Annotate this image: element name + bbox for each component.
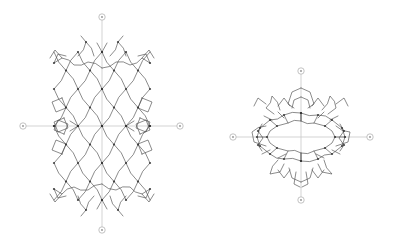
atom-knot bbox=[269, 119, 271, 121]
atom-knot bbox=[65, 69, 67, 71]
bond-path bbox=[292, 97, 301, 108]
atom-knot bbox=[324, 125, 326, 127]
bond-path bbox=[78, 196, 94, 210]
atom-knot bbox=[125, 88, 127, 90]
atom-knot bbox=[269, 153, 271, 155]
bond-path bbox=[312, 170, 324, 178]
atom-knot bbox=[259, 145, 261, 147]
atom-knot bbox=[101, 162, 103, 164]
bond-path bbox=[81, 36, 86, 42]
atom-knot bbox=[117, 41, 119, 43]
bond-path bbox=[110, 42, 126, 56]
atom-knot bbox=[341, 127, 343, 129]
bond-path bbox=[322, 96, 336, 114]
axis-marker-glyph bbox=[232, 136, 234, 138]
atom-knot bbox=[125, 199, 127, 201]
bond-path bbox=[114, 52, 126, 126]
atom-knot bbox=[149, 88, 151, 90]
atom-knot bbox=[331, 153, 333, 155]
atom-knot bbox=[85, 41, 87, 43]
bond-path bbox=[270, 160, 284, 174]
bond-path bbox=[278, 98, 290, 106]
atom-knot bbox=[324, 147, 326, 149]
bond-path bbox=[284, 115, 288, 123]
viewer-canvas[interactable] bbox=[0, 0, 394, 241]
atom-knot bbox=[65, 106, 67, 108]
atom-knot bbox=[256, 136, 258, 138]
atom-knot bbox=[343, 130, 345, 132]
atom-knot bbox=[89, 106, 91, 108]
bond-path bbox=[312, 98, 324, 106]
atom-knot bbox=[125, 162, 127, 164]
bond-path bbox=[78, 52, 90, 126]
axis-marker-glyph bbox=[300, 70, 302, 72]
structure-scene[interactable] bbox=[0, 0, 394, 241]
atom-knot bbox=[341, 145, 343, 147]
bond-path bbox=[318, 160, 332, 174]
atom-knot bbox=[266, 136, 268, 138]
atom-knot bbox=[113, 180, 115, 182]
bond-path bbox=[325, 120, 332, 126]
atom-knot bbox=[77, 51, 79, 53]
bond-path bbox=[118, 210, 123, 216]
bond-path bbox=[102, 200, 107, 209]
atom-knot bbox=[89, 180, 91, 182]
bond-path bbox=[110, 196, 126, 210]
atom-knot bbox=[53, 188, 55, 190]
atom-knot bbox=[137, 69, 139, 71]
atom-knot bbox=[149, 162, 151, 164]
atom-knot bbox=[257, 144, 259, 146]
atom-knot bbox=[85, 209, 87, 211]
bond-path bbox=[97, 43, 102, 52]
bond-path bbox=[97, 200, 102, 209]
axis-marker-glyph bbox=[300, 199, 302, 201]
atom-knot bbox=[65, 180, 67, 182]
atom-knot bbox=[317, 158, 319, 160]
bond-path bbox=[270, 120, 277, 126]
atom-knot bbox=[101, 125, 103, 127]
atom-knot bbox=[300, 112, 302, 114]
atom-knot bbox=[317, 114, 319, 116]
atom-knot bbox=[149, 62, 151, 64]
atom-knot bbox=[276, 125, 278, 127]
atom-knot bbox=[257, 130, 259, 132]
bond-path bbox=[102, 184, 150, 194]
bond-path bbox=[270, 148, 277, 154]
bond-path bbox=[78, 42, 94, 56]
atom-knot bbox=[331, 119, 333, 121]
atom-knot bbox=[77, 162, 79, 164]
atom-knot bbox=[137, 106, 139, 108]
bond-path bbox=[325, 148, 332, 154]
atom-knot bbox=[334, 136, 336, 138]
bond-path bbox=[81, 210, 86, 216]
bond-path bbox=[54, 52, 66, 126]
atom-knot bbox=[149, 188, 151, 190]
atom-knot bbox=[343, 144, 345, 146]
atom-knot bbox=[283, 158, 285, 160]
atom-knot bbox=[300, 160, 302, 162]
bond-path bbox=[90, 126, 102, 200]
atom-knot bbox=[53, 125, 55, 127]
atom-knot bbox=[101, 51, 103, 53]
atom-knot bbox=[113, 69, 115, 71]
axis-marker-glyph bbox=[101, 229, 103, 231]
atom-knot bbox=[283, 114, 285, 116]
bond-path bbox=[266, 96, 280, 114]
bond-path bbox=[54, 184, 102, 194]
atom-knot bbox=[77, 199, 79, 201]
atom-knot bbox=[101, 88, 103, 90]
structure-view-right bbox=[230, 68, 373, 203]
bond-path bbox=[102, 58, 150, 68]
bond-path bbox=[301, 97, 310, 108]
atom-knot bbox=[89, 69, 91, 71]
axis-marker-glyph bbox=[179, 125, 181, 127]
axis-marker-glyph bbox=[101, 16, 103, 18]
atom-knot bbox=[117, 209, 119, 211]
atom-knot bbox=[89, 143, 91, 145]
atom-knot bbox=[137, 143, 139, 145]
bond-path bbox=[138, 126, 150, 200]
bond-path bbox=[302, 172, 308, 187]
axis-marker-glyph bbox=[369, 136, 371, 138]
bond-path bbox=[102, 52, 114, 126]
atom-knot bbox=[53, 62, 55, 64]
